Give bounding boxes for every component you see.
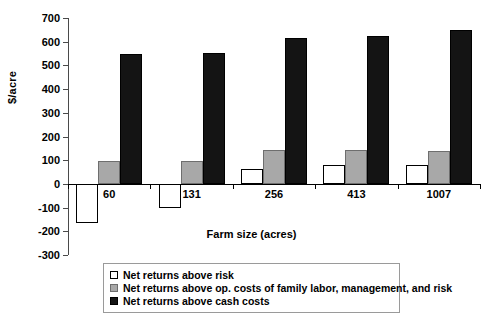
y-axis-tick-label: 400 [42,84,60,95]
bar [367,36,389,184]
bar-group: 60 [68,18,150,255]
y-axis-tick-label: 200 [42,131,60,142]
legend-item-label: Net returns above cash costs [123,295,269,307]
bar [181,161,203,184]
bar-group: 131 [150,18,232,255]
bar [98,161,120,184]
x-axis-tick [480,184,481,189]
x-axis-category-label: 413 [315,188,397,200]
x-axis-category-label: 1007 [398,188,480,200]
y-axis-tick-label: 100 [42,155,60,166]
y-axis-tick-label: 0 [54,178,60,189]
bar [285,38,307,184]
bar [428,151,450,184]
bar [406,165,428,184]
legend-item-label: Net returns above op. costs of family la… [123,282,452,294]
y-axis-title: $/acre [6,71,18,104]
bar [323,165,345,183]
bar-group: 256 [233,18,315,255]
legend-item[interactable]: Net returns above cash costs [110,294,393,307]
bar-chart: $/acre 7006005004003002001000-100-200-30… [0,0,503,326]
y-axis-tick-label: -300 [38,250,60,261]
x-axis-title: Farm size (acres) [0,228,503,240]
y-axis-tick-label: 700 [42,13,60,24]
bar [203,53,225,184]
bar [345,150,367,184]
black-square-icon [110,297,118,305]
gray-square-icon [110,284,118,292]
legend-item[interactable]: Net returns above op. costs of family la… [110,281,393,294]
bar [450,30,472,184]
chart-legend: Net returns above risk Net returns above… [103,263,400,313]
y-axis-tick-label: 500 [42,60,60,71]
y-axis-tick-label: 300 [42,107,60,118]
x-axis-category-label: 131 [150,188,232,200]
bar-group: 1007 [398,18,480,255]
x-axis-category-label: 256 [233,188,315,200]
y-axis-tick-label: 600 [42,36,60,47]
legend-item[interactable]: Net returns above risk [110,268,393,281]
y-axis-tick [63,255,68,256]
bar-group: 413 [315,18,397,255]
x-axis-category-label: 60 [68,188,150,200]
plot-area: 7006005004003002001000-100-200-300 60131… [68,18,480,255]
white-square-icon [110,271,118,279]
legend-item-label: Net returns above risk [123,269,234,281]
bar [120,54,142,184]
y-axis-tick-label: -100 [38,202,60,213]
bar [241,169,263,184]
bar [263,150,285,184]
